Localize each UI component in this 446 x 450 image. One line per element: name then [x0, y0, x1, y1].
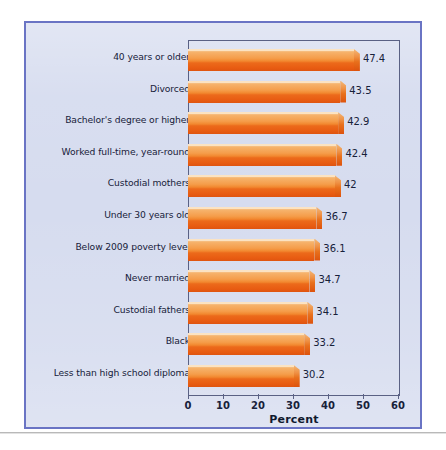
bar-value-label: 42.9 — [347, 115, 369, 129]
bar-value-label: 33.2 — [313, 336, 335, 350]
x-axis-tick-label: 10 — [211, 400, 235, 411]
category-label: Custodial mothers — [30, 176, 190, 190]
bar — [188, 112, 338, 134]
bar — [188, 239, 314, 261]
category-label: Worked full-time, year-round — [30, 145, 190, 159]
bar-highlight — [188, 144, 336, 146]
bar-end-cap — [294, 365, 300, 387]
category-label: Below 2009 poverty level — [30, 240, 190, 254]
category-label: Divorced — [30, 82, 190, 96]
bar — [188, 144, 336, 166]
bar-value-label: 43.5 — [349, 84, 371, 98]
category-label: Custodial fathers — [30, 303, 190, 317]
x-axis-tick-mark — [188, 394, 189, 399]
bar-value-label: 36.7 — [325, 210, 347, 224]
bar — [188, 365, 294, 387]
bar-value-label: 47.4 — [363, 52, 385, 66]
bar-highlight — [188, 239, 314, 241]
category-label: 40 years or older — [30, 50, 190, 64]
bar-highlight — [188, 302, 307, 304]
x-axis-tick-label: 0 — [176, 400, 200, 411]
bar-end-cap — [316, 207, 322, 229]
bar-end-cap — [304, 333, 310, 355]
x-axis-tick-mark — [293, 394, 294, 399]
bar-highlight — [188, 365, 294, 367]
x-axis-tick-mark — [328, 394, 329, 399]
bar — [188, 302, 307, 324]
bar-value-label: 34.1 — [316, 305, 338, 319]
bar-highlight — [188, 175, 335, 177]
bar-highlight — [188, 81, 340, 83]
bar-end-cap — [335, 175, 341, 197]
x-axis-tick-mark — [363, 394, 364, 399]
category-label: Bachelor's degree or higher — [30, 113, 190, 127]
bar-value-label: 34.7 — [318, 273, 340, 287]
category-label: Less than high school diploma — [30, 366, 190, 380]
bar-end-cap — [307, 302, 313, 324]
bar — [188, 270, 309, 292]
bar-highlight — [188, 207, 316, 209]
bar — [188, 49, 354, 71]
bar-highlight — [188, 49, 354, 51]
bar — [188, 207, 316, 229]
bar-highlight — [188, 112, 338, 114]
bar-series: 47.443.542.942.44236.736.134.734.133.230… — [188, 41, 400, 393]
bar-highlight — [188, 333, 304, 335]
category-label: Never married — [30, 271, 190, 285]
x-axis-tick-mark — [258, 394, 259, 399]
x-axis-tick-mark — [398, 394, 399, 399]
category-label-column: 40 years or olderDivorcedBachelor's degr… — [30, 37, 190, 387]
category-label: Black — [30, 334, 190, 348]
bar-end-cap — [338, 112, 344, 134]
bar — [188, 175, 335, 197]
bar-value-label: 42.4 — [345, 147, 367, 161]
category-label: Under 30 years old — [30, 208, 190, 222]
page-divider-rule-shadow — [0, 433, 446, 434]
x-axis-tick-label: 50 — [351, 400, 375, 411]
x-axis-tick-label: 40 — [316, 400, 340, 411]
x-axis-tick-label: 30 — [281, 400, 305, 411]
bar-end-cap — [314, 239, 320, 261]
chart-figure-panel: Preview 40 years or olderDivorcedBachelo… — [24, 21, 422, 429]
bar-highlight — [188, 270, 309, 272]
bar-end-cap — [336, 144, 342, 166]
x-axis-tick-label: 60 — [386, 400, 410, 411]
bar — [188, 81, 340, 103]
bar-value-label: 36.1 — [323, 242, 345, 256]
bar-value-label: 42 — [344, 178, 357, 192]
x-axis-tick-mark — [223, 394, 224, 399]
x-axis-tick-label: 20 — [246, 400, 270, 411]
bar-value-label: 30.2 — [303, 368, 325, 382]
x-axis-title: Percent — [188, 413, 400, 426]
bar-end-cap — [340, 81, 346, 103]
bar — [188, 333, 304, 355]
bar-end-cap — [354, 49, 360, 71]
bar-end-cap — [309, 270, 315, 292]
page-canvas: Preview 40 years or olderDivorcedBachelo… — [0, 0, 446, 450]
